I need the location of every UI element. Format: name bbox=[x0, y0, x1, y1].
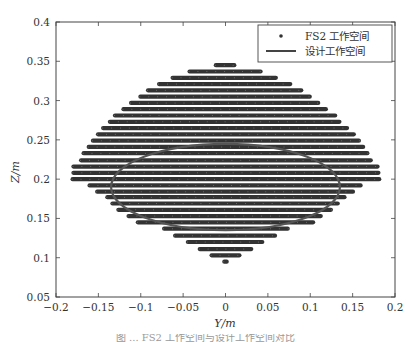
legend-dot-marker-icon bbox=[279, 34, 283, 38]
y-tick-label: 0.2 bbox=[33, 173, 50, 185]
y-tick-label: 0.05 bbox=[27, 291, 50, 303]
x-tick-label: −0.1 bbox=[128, 301, 154, 313]
legend-label-fs2: FS2 工作空间 bbox=[305, 30, 370, 42]
figure-caption: 图 ... FS2 工作空间与设计工作空间对比 bbox=[0, 334, 411, 342]
point-row bbox=[186, 240, 265, 244]
point-row bbox=[173, 234, 277, 238]
point-row bbox=[209, 253, 241, 257]
y-tick-label: 0.4 bbox=[33, 16, 50, 28]
point-row bbox=[110, 201, 339, 205]
scatter-plot: −0.2−0.15−0.1−0.0500.050.10.150.2 0.050.… bbox=[0, 0, 411, 342]
y-tick-label: 0.35 bbox=[27, 55, 50, 67]
x-tick-label: 0.2 bbox=[387, 301, 404, 313]
x-tick-label: −0.05 bbox=[167, 301, 199, 313]
y-tick-label: 0.25 bbox=[27, 134, 50, 146]
x-tick-label: 0.05 bbox=[256, 301, 279, 313]
x-tick-label: −0.15 bbox=[82, 301, 114, 313]
point-row bbox=[87, 183, 362, 187]
point-row bbox=[96, 132, 356, 136]
point-row bbox=[157, 82, 292, 86]
x-tick-label: 0.1 bbox=[302, 301, 319, 313]
point-row bbox=[95, 190, 355, 194]
x-axis-label: Y/m bbox=[214, 317, 235, 330]
point-row bbox=[126, 214, 322, 218]
y-tick-label: 0.1 bbox=[33, 252, 50, 264]
point-row bbox=[113, 113, 337, 117]
point-row bbox=[71, 177, 382, 181]
chart: −0.2−0.15−0.1−0.0500.050.10.150.2 0.050.… bbox=[0, 0, 411, 342]
point-row bbox=[121, 107, 328, 111]
point-row bbox=[171, 76, 278, 80]
legend: FS2 工作空间 设计工作空间 bbox=[258, 25, 392, 62]
y-axis-tick-labels: 0.050.10.150.20.250.30.350.4 bbox=[27, 16, 51, 303]
x-tick-label: 0.15 bbox=[341, 301, 364, 313]
point-row bbox=[79, 158, 373, 162]
point-row bbox=[105, 195, 346, 199]
point-row bbox=[138, 95, 312, 99]
fs2-workspace-points bbox=[71, 63, 382, 264]
x-tick-label: 0 bbox=[222, 301, 229, 313]
point-row bbox=[146, 88, 303, 92]
point-row bbox=[222, 260, 229, 264]
y-axis-label: Z/m bbox=[9, 161, 22, 184]
legend-label-design: 设计工作空间 bbox=[305, 45, 365, 57]
y-tick-label: 0.15 bbox=[27, 212, 50, 224]
y-tick-label: 0.3 bbox=[33, 95, 50, 107]
x-axis-tick-labels: −0.2−0.15−0.1−0.0500.050.10.150.2 bbox=[43, 301, 403, 313]
point-row bbox=[87, 145, 366, 149]
